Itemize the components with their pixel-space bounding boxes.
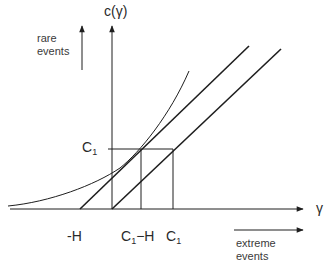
shifted-line-right (112, 49, 281, 209)
tick-c1-main: C (166, 228, 176, 244)
tick-c1-minus-h-main: C (121, 228, 131, 244)
c1-level-label: C1 (82, 140, 97, 157)
tick-c1: C1 (166, 229, 181, 246)
rare-events-line1: rare (37, 32, 69, 45)
tick-neg-h-main: -H (67, 228, 82, 244)
tick-c1-minus-h: C1−H (121, 229, 154, 246)
tick-c1-minus-h-suffix: −H (136, 228, 154, 244)
extreme-events-line2: events (236, 250, 276, 263)
convex-cost-curve (8, 71, 189, 206)
tangent-line-left (80, 46, 249, 209)
tick-neg-h: -H (67, 229, 82, 243)
y-axis-label: c(γ) (104, 4, 127, 18)
extreme-events-line1: extreme (236, 237, 276, 250)
x-axis-label: γ (316, 201, 323, 215)
rare-events-line2: events (37, 45, 69, 58)
rare-events-label: rare events (37, 32, 69, 58)
tick-c1-sub: 1 (176, 236, 181, 246)
c1-level-sub: 1 (92, 147, 97, 157)
extreme-events-label: extreme events (236, 237, 276, 263)
c1-level-main: C (82, 139, 92, 155)
